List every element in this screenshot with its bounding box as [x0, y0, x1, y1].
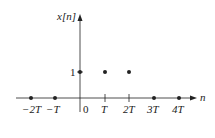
y-tick-1: 1 — [70, 66, 76, 78]
data-point — [78, 70, 82, 74]
y-axis-label: x[n] — [56, 10, 76, 22]
x-axis-arrow-icon — [190, 96, 197, 101]
tick-label: 0 — [83, 103, 89, 115]
data-point — [152, 96, 156, 100]
data-point — [53, 96, 57, 100]
signal-plot: x[n] n 1 −2T −T 0 T 2T 3T 4T — [0, 0, 215, 138]
tick-label: 3T — [146, 103, 160, 115]
data-point — [29, 96, 33, 100]
tick-label: T — [101, 103, 108, 115]
x-tick-labels: −2T −T 0 T 2T 3T 4T — [22, 103, 185, 115]
data-point — [177, 96, 181, 100]
x-axis-label: n — [200, 91, 206, 103]
y-axis-arrow-icon — [78, 14, 83, 21]
data-point — [127, 70, 131, 74]
tick-label: 2T — [123, 103, 136, 115]
data-point — [103, 70, 107, 74]
tick-label: −T — [46, 103, 60, 115]
tick-label: −2T — [22, 103, 42, 115]
tick-label: 4T — [172, 103, 185, 115]
